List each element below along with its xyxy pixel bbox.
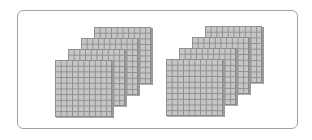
hundred-flat bbox=[166, 59, 223, 116]
hundred-flat bbox=[55, 60, 112, 117]
